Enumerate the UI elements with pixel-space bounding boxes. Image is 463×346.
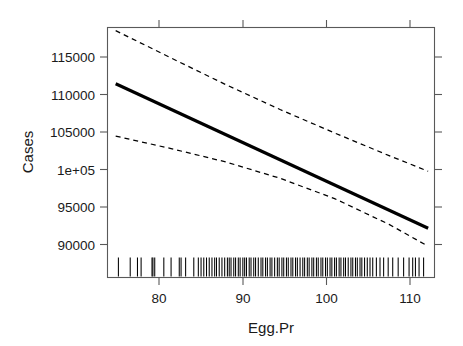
- chart-figure: 115000 110000 105000 1e+05 95000 90000 8…: [0, 0, 463, 346]
- series-upper-confidence-band: [116, 31, 428, 172]
- x-axis-title: Egg.Pr: [248, 319, 294, 336]
- x-tick-label-80: 80: [151, 291, 166, 306]
- y-axis-ticks-right: [435, 57, 443, 245]
- y-tick-label-1e05: 1e+05: [57, 163, 95, 178]
- y-tick-label-105000: 105000: [50, 125, 95, 140]
- y-axis-title: Cases: [19, 131, 36, 174]
- y-tick-label-115000: 115000: [51, 50, 95, 65]
- y-axis-ticks-left: [100, 57, 108, 245]
- y-tick-label-90000: 90000: [57, 238, 95, 253]
- chart-canvas: 115000 110000 105000 1e+05 95000 90000 8…: [0, 0, 463, 346]
- plot-frame: [108, 28, 435, 278]
- y-tick-label-95000: 95000: [57, 200, 95, 215]
- y-tick-label-110000: 110000: [51, 88, 95, 103]
- y-axis-tick-labels: 115000 110000 105000 1e+05 95000 90000: [50, 50, 95, 253]
- x-tick-label-100: 100: [315, 291, 338, 306]
- x-axis-tick-labels: 80 90 100 110: [151, 291, 420, 306]
- x-axis-ticks-bottom: [159, 278, 410, 286]
- rug-plot: [118, 258, 423, 277]
- x-tick-label-110: 110: [399, 291, 421, 306]
- data-series-layer: [116, 31, 428, 247]
- x-tick-label-90: 90: [235, 291, 250, 306]
- x-axis-ticks-top: [159, 20, 410, 28]
